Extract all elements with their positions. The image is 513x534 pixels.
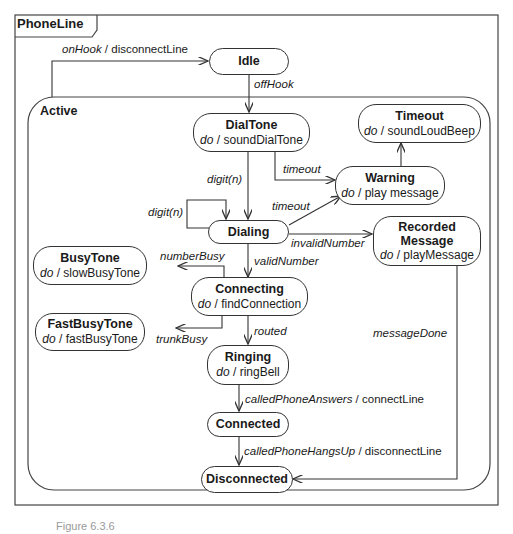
state-name-line1: Recorded — [374, 220, 480, 234]
transition-digit-self: digit(n) — [148, 206, 183, 218]
state-name: Disconnected — [202, 472, 292, 487]
state-name: Timeout — [359, 109, 480, 124]
state-fastbusytone[interactable]: FastBusyTone do / fastBusyTone — [35, 313, 145, 351]
state-activity: do / ringBell — [208, 365, 288, 380]
state-disconnected[interactable]: Disconnected — [201, 466, 293, 493]
state-name: FastBusyTone — [36, 317, 144, 332]
state-idle[interactable]: Idle — [209, 48, 289, 75]
state-name: Connecting — [192, 282, 307, 297]
state-dialtone[interactable]: DialTone do / soundDialTone — [193, 113, 310, 152]
frame-title: PhoneLine — [17, 16, 83, 31]
transition-called-phone-answers: calledPhoneAnswers / connectLine — [245, 393, 424, 405]
state-recorded-message[interactable]: Recorded Message do / playMessage — [373, 216, 481, 266]
transition-invalid-number: invalidNumber — [291, 237, 365, 249]
transition-timeout-dialtone: timeout — [283, 163, 321, 175]
state-name: BusyTone — [34, 251, 146, 266]
transition-onhook: onHook / disconnectLine — [62, 43, 188, 55]
state-activity: do / soundDialTone — [194, 133, 309, 148]
state-dialing[interactable]: Dialing — [208, 220, 289, 244]
transition-trunk-busy: trunkBusy — [156, 333, 207, 345]
state-name: Ringing — [208, 350, 288, 365]
state-name-line2: Message — [374, 234, 480, 248]
transition-digit: digit(n) — [207, 173, 242, 185]
transition-routed: routed — [254, 325, 287, 337]
transition-message-done: messageDone — [373, 327, 447, 339]
state-name: Dialing — [209, 225, 288, 240]
state-name: Warning — [336, 171, 444, 186]
state-connected[interactable]: Connected — [207, 412, 289, 437]
state-activity: do / findConnection — [192, 297, 307, 312]
state-name: Connected — [208, 417, 288, 432]
transition-valid-number: validNumber — [254, 255, 319, 267]
state-name: Idle — [210, 54, 288, 69]
state-warning[interactable]: Warning do / play message — [335, 166, 445, 205]
composite-title: Active — [40, 104, 78, 118]
transition-offhook: offHook — [254, 78, 294, 90]
state-name: DialTone — [194, 118, 309, 133]
state-ringing[interactable]: Ringing do / ringBell — [207, 345, 289, 385]
transition-timeout-dialing: timeout — [272, 200, 310, 212]
state-busytone[interactable]: BusyTone do / slowBusyTone — [33, 246, 147, 285]
state-activity: do / soundLoudBeep — [359, 124, 480, 139]
state-activity: do / fastBusyTone — [36, 332, 144, 347]
state-activity: do / playMessage — [374, 248, 480, 262]
state-activity: do / slowBusyTone — [34, 266, 146, 281]
state-connecting[interactable]: Connecting do / findConnection — [191, 277, 308, 316]
transition-called-phone-hangs-up: calledPhoneHangsUp / disconnectLine — [244, 445, 442, 457]
state-timeout[interactable]: Timeout do / soundLoudBeep — [358, 104, 481, 143]
state-activity: do / play message — [336, 186, 444, 201]
figure-caption: Figure 6.3.6 — [56, 520, 115, 532]
transition-number-busy: numberBusy — [160, 250, 225, 262]
